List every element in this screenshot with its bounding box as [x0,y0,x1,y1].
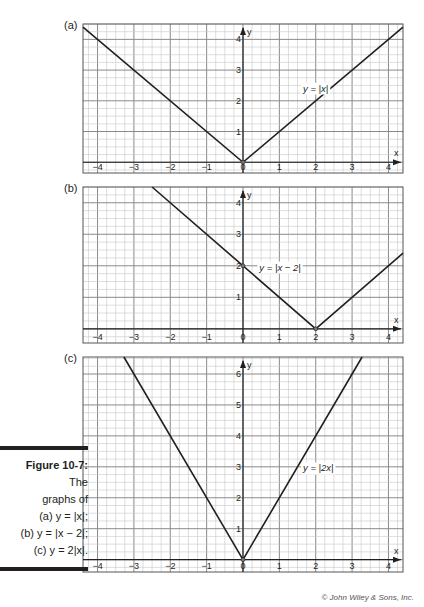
y-tick-label: 2 [236,493,241,503]
x-axis-arrow-icon [393,159,401,165]
equation-label: y = |2x| [302,462,334,473]
caption-title: Figure 10-7: [0,457,88,474]
x-tick-label: 4 [386,561,391,571]
y-tick-label: 1 [236,127,241,137]
x-tick-label: 0 [240,561,245,571]
x-tick-label: 4 [386,162,391,172]
caption-line: (b) y = |x − 2|; [0,525,88,542]
x-axis-label: x [394,546,399,556]
x-axis-label: x [394,315,399,325]
y-axis-label: y [247,27,252,37]
x-tick-label: 1 [277,332,282,342]
x-tick-label: −3 [129,332,139,342]
y-tick-label: 5 [236,400,241,410]
x-tick-label: 2 [313,561,318,571]
caption-bar-top [0,446,88,450]
caption-bar-bottom [0,567,88,571]
y-tick-label: 4 [236,198,241,208]
graph-panel-a: xy−4−3−2−1012341234y = |x| [83,24,403,173]
x-tick-label: 1 [277,162,282,172]
x-tick-label: −1 [202,561,212,571]
y-tick-label: 4 [236,34,241,44]
graph-panel-b: xy−4−3−2−1012341234y = |x − 2| [83,187,403,343]
x-tick-label: −4 [92,561,102,571]
x-tick-label: −3 [129,162,139,172]
y-axis-arrow-icon [240,360,246,368]
x-tick-label: −1 [202,162,212,172]
y-intercept-point [241,264,245,268]
vertex-point [241,160,245,164]
x-tick-label: 4 [386,332,391,342]
y-tick-label: 3 [236,229,241,239]
x-tick-label: 3 [350,332,355,342]
x-axis-arrow-icon [393,326,401,332]
y-axis-label: y [247,190,252,200]
caption-line: (c) y = 2|x|. [0,542,88,559]
vertex-point [241,558,245,562]
caption-line: (a) y = |x|; [0,508,88,525]
x-axis-label: x [394,148,399,158]
x-tick-label: −4 [92,162,102,172]
vertex-point [314,327,318,331]
x-tick-label: −2 [165,561,175,571]
y-tick-label: 6 [236,369,241,379]
y-tick-label: 1 [236,524,241,534]
y-tick-label: 4 [236,431,241,441]
x-tick-label: −2 [165,162,175,172]
x-tick-label: 3 [350,162,355,172]
figure-caption: Figure 10-7: The graphs of (a) y = |x|; … [0,457,88,559]
graph-panel-c: xy−4−3−2−101234123456y = |2x| [83,357,403,572]
x-tick-label: 1 [277,561,282,571]
x-tick-label: −2 [165,332,175,342]
y-tick-label: 3 [236,462,241,472]
y-axis-label: y [247,360,252,370]
copyright-credit: © John Wiley & Sons, Inc. [321,593,414,602]
caption-line: The [0,474,88,491]
x-tick-label: 0 [240,332,245,342]
x-tick-label: −1 [202,332,212,342]
x-tick-label: 2 [313,332,318,342]
y-tick-label: 3 [236,65,241,75]
x-tick-label: −3 [129,561,139,571]
x-axis-arrow-icon [393,557,401,563]
x-tick-label: −4 [92,332,102,342]
equation-label: y = |x − 2| [258,262,300,273]
x-tick-label: 3 [350,561,355,571]
x-tick-label: 2 [313,162,318,172]
equation-label: y = |x| [302,83,328,94]
y-tick-label: 2 [236,96,241,106]
caption-line: graphs of [0,491,88,508]
y-tick-label: 1 [236,292,241,302]
